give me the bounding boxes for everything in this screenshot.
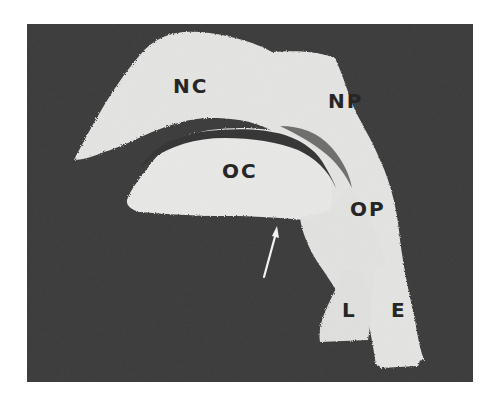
label-oropharynx: OP	[350, 197, 386, 221]
label-nasal-cavity: NC	[173, 74, 208, 98]
label-nasopharynx: NP	[328, 89, 363, 113]
film-grain	[27, 24, 473, 382]
label-esophagus: E	[391, 298, 407, 322]
label-oral-cavity: OC	[222, 159, 258, 183]
anatomical-cast-photo: NC NP OC OP L E	[0, 0, 500, 408]
label-larynx: L	[342, 298, 357, 322]
photo-canvas: NC NP OC OP L E	[0, 0, 500, 408]
